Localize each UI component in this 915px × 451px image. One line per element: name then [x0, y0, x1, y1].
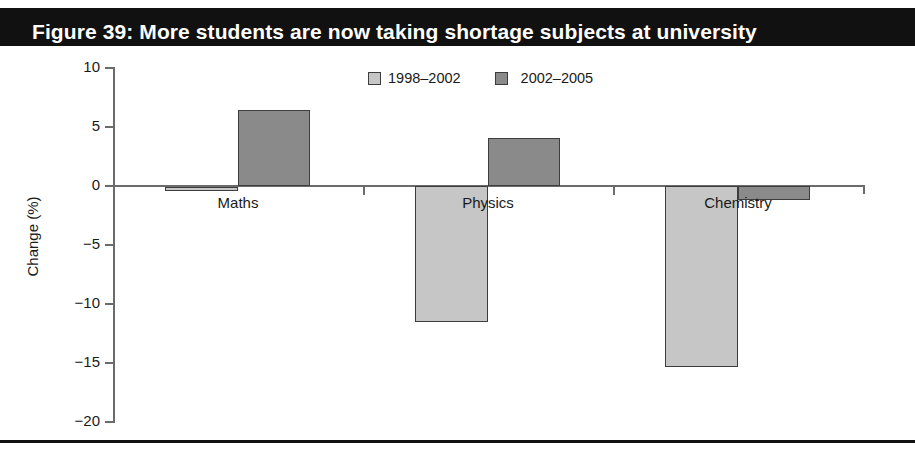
- y-axis-tick-label: −5: [42, 236, 100, 251]
- bar-chemistry-1998-2002: [665, 186, 738, 367]
- y-axis-tick-label: −10: [42, 295, 100, 310]
- legend-item-1998-2002: 1998–2002: [368, 70, 461, 86]
- x-axis-tick: [613, 187, 615, 195]
- y-axis-tick-label: −15: [42, 354, 100, 369]
- legend-label: 1998–2002: [388, 70, 461, 86]
- y-axis-tick-label: 10: [42, 59, 100, 74]
- legend-swatch-icon: [495, 72, 508, 85]
- plot-area: 1998–2002 2002–2005 10 5 0 −5 −10: [0, 46, 915, 440]
- figure-container: Figure 39: More students are now taking …: [0, 0, 915, 451]
- legend-label: 2002–2005: [521, 70, 594, 86]
- legend-swatch-icon: [368, 72, 381, 85]
- bar-maths-1998-2002: [165, 187, 238, 191]
- category-label-maths: Maths: [178, 194, 298, 211]
- legend-item-2002-2005: 2002–2005: [495, 70, 594, 86]
- y-axis-tick: [105, 362, 114, 364]
- bar-physics-2002-2005: [488, 138, 560, 186]
- x-axis-tick: [363, 187, 365, 195]
- figure-bottom-rule: [0, 440, 915, 443]
- y-axis-tick-label: 0: [42, 177, 100, 192]
- y-axis-tick-label: −20: [42, 413, 100, 428]
- x-axis-end-tick: [863, 185, 865, 194]
- figure-title-band: Figure 39: More students are now taking …: [0, 8, 915, 46]
- y-axis-title: Change (%): [24, 167, 41, 307]
- y-axis-tick: [105, 126, 114, 128]
- chart-legend: 1998–2002 2002–2005: [368, 70, 593, 86]
- y-axis-tick-label: 5: [42, 118, 100, 133]
- bar-maths-2002-2005: [238, 110, 310, 186]
- y-axis-tick: [105, 303, 114, 305]
- y-axis-tick: [105, 244, 114, 246]
- y-axis-tick: [105, 421, 114, 423]
- figure-title: Figure 39: More students are now taking …: [32, 20, 757, 44]
- category-label-chemistry: Chemistry: [678, 194, 798, 211]
- category-label-physics: Physics: [428, 194, 548, 211]
- y-axis-tick: [105, 67, 114, 69]
